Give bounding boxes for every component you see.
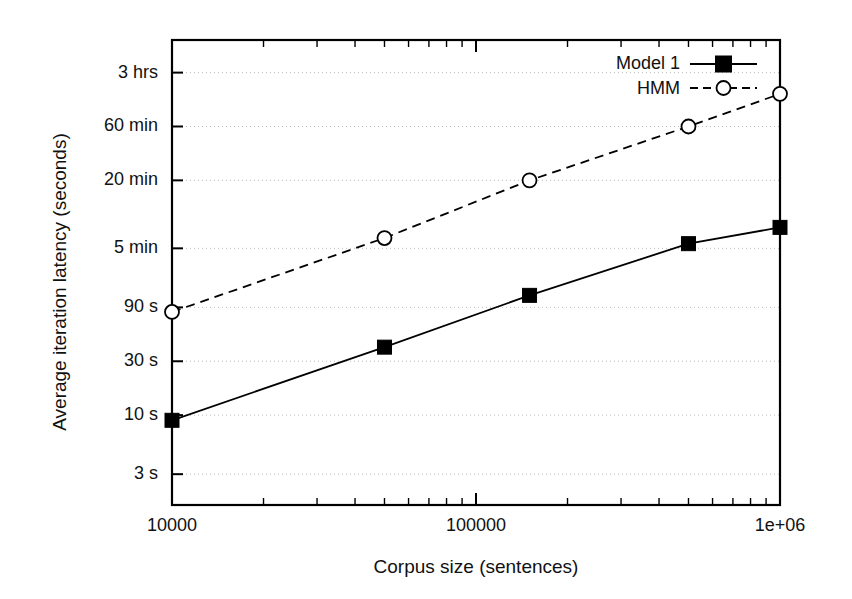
x-axis-title: Corpus size (sentences) [172, 556, 780, 578]
axes-frame [172, 40, 780, 505]
y-tick-label: 30 s [40, 350, 158, 371]
y-tick-label: 3 hrs [40, 62, 158, 83]
y-tick-label: 5 min [40, 237, 158, 258]
y-tick-label: 90 s [40, 296, 158, 317]
y-tick-label: 3 s [40, 463, 158, 484]
y-tick-label: 60 min [40, 115, 158, 136]
legend-label-model-1: Model 1 [480, 53, 680, 74]
y-tick-label: 20 min [40, 169, 158, 190]
x-tick-label: 100000 [421, 515, 531, 536]
y-tick-label: 10 s [40, 404, 158, 425]
series-line-hmm [165, 87, 787, 319]
x-tick-label: 1e+06 [725, 515, 835, 536]
x-tick-label: 10000 [117, 515, 227, 536]
legend-glyphs [690, 56, 757, 95]
figure-canvas: Average iteration latency (seconds) Corp… [0, 0, 852, 599]
series-line-model-1 [165, 220, 787, 427]
legend-label-hmm: HMM [480, 78, 680, 99]
x-axis-ticks [172, 40, 780, 505]
